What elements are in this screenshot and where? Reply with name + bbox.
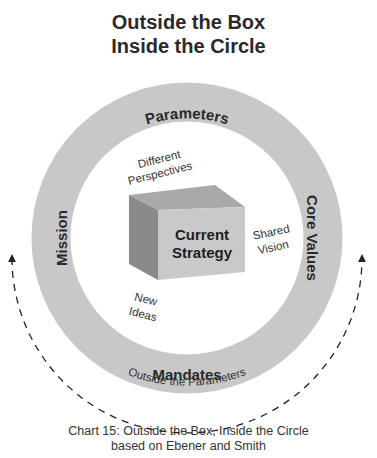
svg-text:Ideas: Ideas	[128, 305, 158, 324]
circle-diagram: Parameters Mandates Mission Core Values …	[0, 0, 377, 458]
caption-line-2: based on Ebener and Smith	[0, 439, 377, 454]
label-new-ideas: New Ideas	[128, 291, 159, 324]
svg-text:Vision: Vision	[257, 238, 290, 256]
svg-text:New: New	[133, 291, 159, 308]
ring-label-core-values: Core Values	[304, 195, 321, 281]
box-side-face	[129, 195, 158, 280]
diagram-caption: Chart 15: Outside the Box, Inside the Ci…	[0, 424, 377, 454]
ring-label-mission: Mission	[53, 210, 70, 266]
label-shared-vision: Shared Vision	[252, 222, 291, 256]
caption-line-1: Chart 15: Outside the Box, Inside the Ci…	[0, 424, 377, 439]
box-label-line-1: Current	[175, 226, 229, 243]
label-different-perspectives: Different Perspectives	[127, 148, 194, 187]
current-strategy-box: Current Strategy	[129, 185, 245, 280]
ring-label-parameters: Parameters	[143, 104, 231, 127]
box-label-line-2: Strategy	[172, 244, 233, 261]
